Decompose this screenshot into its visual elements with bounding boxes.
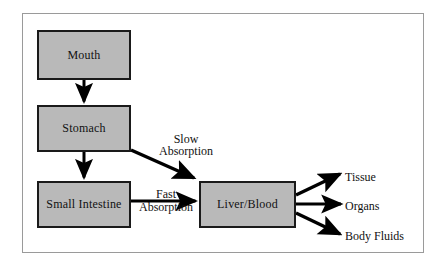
output-label-body-fluids: Body Fluids bbox=[345, 229, 404, 244]
edge-label-slow-line2: Absorption bbox=[155, 145, 217, 157]
node-mouth-label: Mouth bbox=[67, 48, 100, 63]
output-label-tissue: Tissue bbox=[345, 170, 376, 185]
node-small-intestine-label: Small Intestine bbox=[46, 197, 121, 212]
node-liver-blood[interactable]: Liver/Blood bbox=[199, 181, 296, 228]
edge-label-slow-absorption: Slow Absorption bbox=[155, 133, 217, 157]
output-label-organs: Organs bbox=[345, 199, 379, 214]
node-mouth[interactable]: Mouth bbox=[37, 30, 131, 80]
diagram-canvas: Mouth Stomach Small Intestine Liver/Bloo… bbox=[0, 0, 446, 270]
node-liver-blood-label: Liver/Blood bbox=[217, 197, 278, 212]
edge-label-fast-line1: Fast bbox=[136, 188, 196, 200]
node-small-intestine[interactable]: Small Intestine bbox=[37, 181, 131, 228]
edge-label-fast-line2: Absorption bbox=[130, 201, 202, 213]
node-stomach-label: Stomach bbox=[62, 121, 105, 136]
node-stomach[interactable]: Stomach bbox=[37, 105, 131, 152]
